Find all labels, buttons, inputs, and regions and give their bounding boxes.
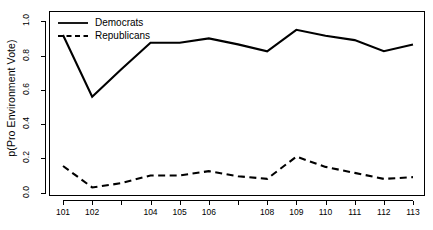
series-line-republicans [63, 157, 413, 188]
y-axis-line [45, 21, 46, 192]
plot-area [0, 0, 433, 230]
x-tick-104 [151, 201, 152, 205]
x-tick-112 [384, 201, 385, 205]
y-tick-label-text: 1.0 [21, 9, 31, 31]
x-tick-108 [267, 201, 268, 205]
y-tick-label-0.6: 0.6 [15, 84, 37, 94]
y-tick-label-0.4: 0.4 [15, 118, 37, 128]
y-tick-0.4 [41, 124, 46, 125]
x-tick-102 [92, 201, 93, 205]
x-tick-label-113: 113 [393, 207, 433, 217]
y-tick-label-text: 0.2 [21, 146, 31, 168]
x-tick-105 [180, 201, 181, 205]
y-tick-0.8 [41, 56, 46, 57]
series-line-democrats [63, 30, 413, 97]
y-tick-label-0.8: 0.8 [15, 50, 37, 60]
y-tick-1.0 [41, 21, 46, 22]
x-tick-107 [238, 201, 239, 205]
y-tick-0.6 [41, 90, 46, 91]
x-tick-113 [413, 201, 414, 205]
x-tick-label-102: 102 [72, 207, 112, 217]
y-tick-0.0 [41, 193, 46, 194]
y-tick-label-0.0: 0.0 [15, 187, 37, 197]
y-tick-label-text: 0.6 [21, 78, 31, 100]
y-tick-label-0.2: 0.2 [15, 152, 37, 162]
x-tick-101 [63, 201, 64, 205]
y-tick-label-text: 0.8 [21, 44, 31, 66]
y-tick-label-text: 0.4 [21, 112, 31, 134]
x-tick-label-106: 106 [189, 207, 229, 217]
x-tick-103 [121, 201, 122, 205]
y-tick-label-1.0: 1.0 [15, 15, 37, 25]
x-tick-109 [296, 201, 297, 205]
x-tick-110 [326, 201, 327, 205]
y-tick-0.2 [41, 158, 46, 159]
chart-figure: p(Pro Environment Vote) 0.00.20.40.60.81… [0, 0, 433, 230]
x-tick-106 [209, 201, 210, 205]
x-tick-111 [355, 201, 356, 205]
y-tick-label-text: 0.0 [21, 181, 31, 203]
